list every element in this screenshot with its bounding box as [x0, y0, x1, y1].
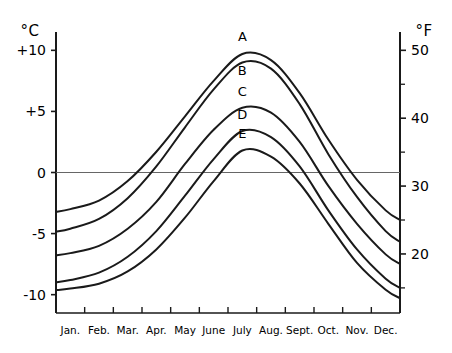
left-axis: °C+10+50-5-10 — [16, 22, 56, 313]
month-label-Apr: Apr. — [146, 324, 167, 336]
month-label-Sept: Sept. — [286, 324, 313, 336]
bottom-axis — [56, 307, 400, 313]
chart-canvas: °C+10+50-5-10 °F50403020 ABCDE Jan.Feb.M… — [0, 0, 452, 353]
y-tick-label--5: -5 — [32, 226, 46, 242]
month-label-Feb: Feb. — [88, 324, 110, 336]
curve-label-B: B — [238, 63, 247, 78]
y-tick-label-+5: +5 — [25, 103, 46, 119]
month-label-May: May — [174, 324, 196, 336]
month-label-Jan: Jan. — [60, 324, 81, 336]
month-label-Mar: Mar. — [117, 324, 139, 336]
month-label-June: June — [201, 324, 225, 336]
month-label-Aug: Aug. — [259, 324, 283, 336]
temperature-chart: °C+10+50-5-10 °F50403020 ABCDE Jan.Feb.M… — [0, 0, 452, 353]
data-curves — [56, 53, 400, 299]
curve-labels: ABCDE — [237, 29, 247, 142]
y-tick-label--10: -10 — [23, 287, 46, 303]
y2-tick-label-30: 30 — [411, 178, 429, 194]
y2-tick-label-40: 40 — [411, 110, 429, 126]
y2-tick-label-50: 50 — [411, 42, 429, 58]
y-tick-label-0: 0 — [37, 165, 46, 181]
month-tick-labels: Jan.Feb.Mar.Apr.MayJuneJulyAug.Sept.Oct.… — [60, 324, 398, 336]
curve-D — [56, 130, 400, 288]
curve-label-A: A — [238, 29, 247, 44]
month-label-Oct: Oct. — [318, 324, 340, 336]
curve-label-D: D — [237, 107, 247, 122]
celsius-unit-label: °C — [21, 22, 40, 40]
month-label-July: July — [232, 324, 252, 336]
fahrenheit-unit-label: °F — [415, 22, 432, 40]
curve-E — [56, 149, 400, 298]
y-tick-label-+10: +10 — [16, 42, 46, 58]
curve-A — [56, 53, 400, 220]
curve-label-C: C — [238, 84, 247, 99]
month-label-Dec: Dec. — [374, 324, 398, 336]
right-axis: °F50403020 — [400, 22, 433, 313]
month-label-Nov: Nov. — [345, 324, 368, 336]
y2-tick-label-20: 20 — [411, 246, 429, 262]
curve-label-E: E — [238, 126, 246, 141]
